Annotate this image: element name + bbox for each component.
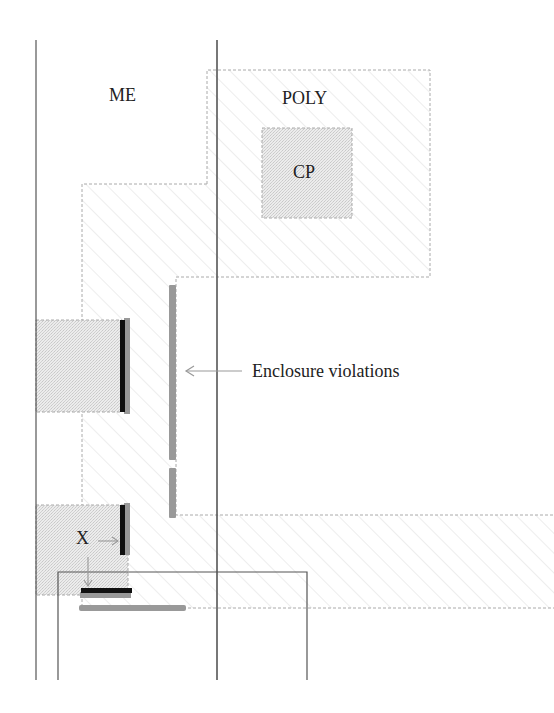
lower-contact <box>36 505 128 595</box>
enclosure-violations-label: Enclosure violations <box>252 361 399 382</box>
layout-diagram <box>0 0 554 713</box>
cp-label: CP <box>293 162 315 183</box>
violation-bar-gray-long-h <box>79 605 186 611</box>
poly-label: POLY <box>282 88 327 109</box>
enclosure-violation-bar-1 <box>169 285 176 460</box>
violation-bar-black-upper <box>120 320 125 412</box>
metal-label: ME <box>109 85 136 106</box>
upper-contact <box>36 320 122 412</box>
x-marker-label: X <box>76 528 89 549</box>
enclosure-violation-bar-2 <box>169 468 176 518</box>
violation-bar-black-lower-v <box>120 505 125 555</box>
enclosure-arrow-icon <box>186 366 242 376</box>
violation-bar-black-lower-h <box>81 588 132 593</box>
